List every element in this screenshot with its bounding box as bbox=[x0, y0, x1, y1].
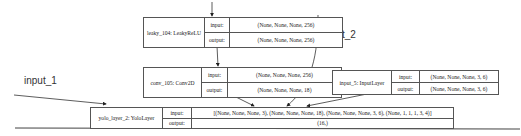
input-shape: [(None, None, None, 3), (None, None, Non… bbox=[192, 108, 453, 118]
output-key: output: bbox=[202, 82, 227, 97]
input-key: input: bbox=[392, 71, 419, 82]
edge-input1-to-yolo bbox=[14, 95, 106, 104]
input-shape: (None, None, None, 256) bbox=[228, 68, 341, 82]
node-label: conv_105: Conv2D bbox=[144, 68, 202, 97]
output-shape: (None, None, None, 3, 6) bbox=[420, 82, 498, 94]
output-key: output: bbox=[205, 32, 229, 47]
edge-leaky-to-conv bbox=[217, 46, 218, 66]
output-shape: (16,) bbox=[192, 118, 453, 129]
input-shape: (None, None, None, 256) bbox=[230, 18, 342, 32]
output-key: output: bbox=[392, 82, 419, 94]
input-shape: (None, None, None, 3, 6) bbox=[420, 71, 498, 82]
input-key: input: bbox=[205, 18, 229, 32]
node-label: yolo_layer_2: YoloLayer bbox=[91, 108, 163, 128]
output-shape: (None, None, None, 256) bbox=[230, 32, 342, 47]
input-key: input: bbox=[163, 108, 191, 118]
output-shape: (None, None, None, 18) bbox=[228, 82, 341, 97]
output-key: output: bbox=[163, 118, 191, 129]
node-yolo-layer-2[interactable]: yolo_layer_2: YoloLayer input: output: [… bbox=[90, 107, 454, 129]
input-key: input: bbox=[202, 68, 227, 82]
node-conv-105[interactable]: conv_105: Conv2D input: output: (None, N… bbox=[143, 67, 342, 98]
input-1-label: input_1 bbox=[24, 75, 57, 86]
node-input-5[interactable]: input_5: InputLayer input: output: (None… bbox=[332, 70, 499, 95]
node-label: input_5: InputLayer bbox=[333, 71, 392, 94]
node-leaky-104[interactable]: leaky_104: LeakyReLU input: output: (Non… bbox=[143, 17, 343, 48]
node-label: leaky_104: LeakyReLU bbox=[144, 18, 205, 47]
